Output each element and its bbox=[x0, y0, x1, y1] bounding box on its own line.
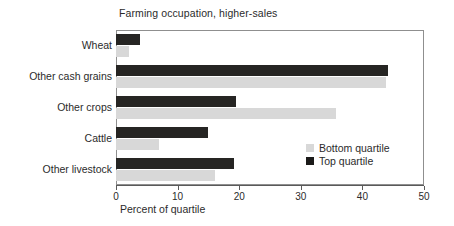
x-tick-mark bbox=[424, 186, 425, 190]
x-tick-label: 0 bbox=[113, 191, 119, 202]
bar-bottom-quartile bbox=[116, 139, 159, 150]
legend-item: Bottom quartile bbox=[306, 141, 390, 154]
bar-top-quartile bbox=[116, 127, 208, 138]
bar-bottom-quartile bbox=[116, 46, 129, 57]
bar-bottom-quartile bbox=[116, 77, 386, 88]
x-tick-mark bbox=[362, 186, 363, 190]
category-label: Other cash grains bbox=[2, 70, 112, 82]
x-axis-title: Percent of quartile bbox=[120, 203, 205, 215]
legend-item: Top quartile bbox=[306, 154, 390, 167]
bar-top-quartile bbox=[116, 65, 388, 76]
category-label: Cattle bbox=[2, 132, 112, 144]
bar-top-quartile bbox=[116, 34, 140, 45]
x-tick-label: 50 bbox=[418, 191, 429, 202]
x-tick-mark bbox=[301, 186, 302, 190]
legend-swatch-bottom-quartile bbox=[306, 144, 314, 152]
legend-label: Top quartile bbox=[319, 155, 373, 167]
legend-label: Bottom quartile bbox=[319, 142, 390, 154]
bar-top-quartile bbox=[116, 158, 234, 169]
category-label: Other crops bbox=[2, 101, 112, 113]
category-label: Wheat bbox=[2, 39, 112, 51]
legend-swatch-top-quartile bbox=[306, 157, 314, 165]
category-label: Other livestock bbox=[2, 163, 112, 175]
bar-group bbox=[116, 65, 424, 88]
x-tick-label: 20 bbox=[234, 191, 245, 202]
x-tick-label: 40 bbox=[357, 191, 368, 202]
bar-bottom-quartile bbox=[116, 170, 215, 181]
x-tick-label: 30 bbox=[295, 191, 306, 202]
bar-top-quartile bbox=[116, 96, 236, 107]
chart-legend: Bottom quartileTop quartile bbox=[306, 141, 390, 167]
x-tick-mark bbox=[116, 186, 117, 190]
category-axis-labels: WheatOther cash grainsOther cropsCattleO… bbox=[0, 30, 112, 185]
x-tick-label: 10 bbox=[172, 191, 183, 202]
bar-group bbox=[116, 34, 424, 57]
bar-group bbox=[116, 96, 424, 119]
bar-bottom-quartile bbox=[116, 108, 336, 119]
chart-title: Farming occupation, higher-sales bbox=[119, 7, 277, 19]
x-tick-mark bbox=[178, 186, 179, 190]
bar-chart-figure: Farming occupation, higher-sales WheatOt… bbox=[0, 0, 454, 226]
x-tick-mark bbox=[239, 186, 240, 190]
